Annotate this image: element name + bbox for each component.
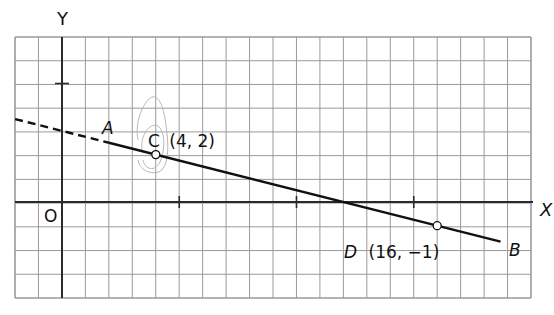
coordinate-plane-figure: Y X O A B C (4, 2) D (16, −1) [0, 0, 554, 315]
y-axis-label: Y [56, 8, 69, 29]
point-d-coords: (16, −1) [369, 242, 440, 262]
point-d-label: D (16, −1) [344, 242, 439, 262]
line-end-label-b: B [509, 240, 521, 260]
background [0, 0, 554, 315]
point-d-marker [433, 222, 441, 230]
point-c-name: C [148, 131, 160, 151]
point-c-coords: (4, 2) [169, 131, 215, 151]
origin-label: O [44, 206, 57, 226]
line-start-label-a: A [101, 118, 114, 138]
point-c-label: C (4, 2) [148, 131, 215, 151]
x-axis-label: X [539, 199, 553, 220]
point-c-marker [152, 151, 160, 159]
point-d-name: D [344, 242, 357, 262]
